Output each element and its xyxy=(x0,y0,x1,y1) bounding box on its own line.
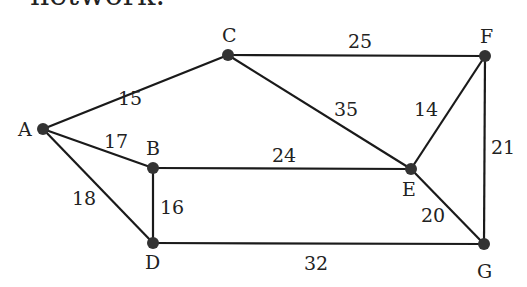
edge-weight-d-g: 32 xyxy=(304,252,328,274)
node-label-d: D xyxy=(145,251,160,273)
edge-weight-a-b: 17 xyxy=(104,130,128,152)
edge-weight-a-c: 15 xyxy=(118,87,142,109)
edge-f-g xyxy=(484,56,485,244)
edge-weight-b-d: 16 xyxy=(160,196,184,218)
edge-weight-b-e: 24 xyxy=(272,144,296,166)
node-label-g: G xyxy=(477,260,492,282)
edge-b-e xyxy=(153,168,411,169)
edge-weight-a-d: 18 xyxy=(72,187,96,209)
node-f xyxy=(479,50,491,62)
edge-d-g xyxy=(153,243,484,244)
edge-weight-c-e: 35 xyxy=(334,98,358,120)
network-graph: 1517181624253514212032 ABCDEFG xyxy=(0,0,527,287)
node-g xyxy=(478,238,490,250)
edge-weight-f-g: 21 xyxy=(491,136,515,158)
edge-c-f xyxy=(228,55,485,56)
edge-a-d xyxy=(43,129,153,243)
node-label-c: C xyxy=(222,24,237,46)
node-d xyxy=(147,237,159,249)
node-label-a: A xyxy=(17,118,32,140)
edge-weight-c-f: 25 xyxy=(348,30,372,52)
node-e xyxy=(405,163,417,175)
node-c xyxy=(222,49,234,61)
node-b xyxy=(147,162,159,174)
node-a xyxy=(37,123,49,135)
edge-weight-e-g: 20 xyxy=(421,204,445,226)
edge-c-e xyxy=(228,55,411,169)
node-label-b: B xyxy=(146,137,160,159)
node-label-e: E xyxy=(402,178,416,200)
edge-weight-e-f: 14 xyxy=(414,98,438,120)
edge-a-b xyxy=(43,129,153,168)
node-label-f: F xyxy=(480,25,493,47)
